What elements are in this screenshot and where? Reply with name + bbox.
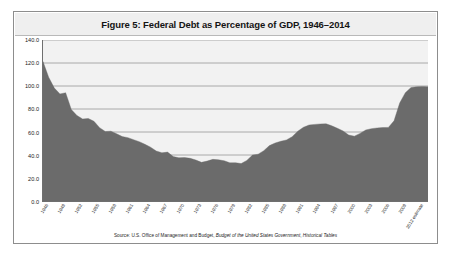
y-axis-tick-label: 0.0 bbox=[31, 199, 39, 205]
x-axis-tick-label: 1949 bbox=[57, 203, 67, 214]
y-axis-tick-label: 140.0 bbox=[25, 37, 39, 43]
source-note: Source: U.S. Office of Management and Bu… bbox=[15, 233, 436, 238]
x-axis-tick-label: 2012 estimate bbox=[405, 203, 424, 230]
debt-area-series bbox=[43, 62, 428, 201]
x-axis-tick-label: 1979 bbox=[227, 203, 237, 214]
x-axis-tick-label: 1952 bbox=[74, 203, 84, 214]
area-chart-svg bbox=[43, 40, 428, 201]
x-axis-tick-label: 2000 bbox=[346, 203, 356, 214]
x-axis-tick-label: 1967 bbox=[159, 203, 169, 214]
chart-title-banner: Figure 5: Federal Debt as Percentage of … bbox=[15, 13, 436, 36]
y-axis-tick-label: 100.0 bbox=[25, 83, 39, 89]
x-axis-tick-label: 2009 bbox=[397, 203, 407, 214]
x-axis-tick-label: 1997 bbox=[329, 203, 339, 214]
x-axis-tick-label: 2003 bbox=[363, 203, 373, 214]
plot-region bbox=[42, 40, 428, 202]
y-axis: 0.020.040.060.080.0100.0120.0140.0 bbox=[14, 40, 39, 202]
y-axis-tick-label: 40.0 bbox=[28, 153, 39, 159]
x-axis-tick-label: 1970 bbox=[176, 203, 186, 214]
y-axis-tick-label: 60.0 bbox=[28, 130, 39, 136]
x-axis-tick-label: 1946 bbox=[40, 203, 50, 214]
x-axis-tick-label: 1958 bbox=[108, 203, 118, 214]
source-publication-title: Budget of the United States Government bbox=[216, 233, 300, 238]
x-axis-tick-label: 1988 bbox=[278, 203, 288, 214]
x-axis-tick-label: 1991 bbox=[295, 203, 305, 214]
x-axis-tick-label: 1961 bbox=[125, 203, 135, 214]
y-axis-tick-label: 20.0 bbox=[28, 176, 39, 182]
x-axis-tick-label: 1985 bbox=[261, 203, 271, 214]
x-axis-tick-label: 1982 bbox=[244, 203, 254, 214]
x-axis-tick-label: 1964 bbox=[142, 203, 152, 214]
page-title: Figure 5: Federal Debt as Percentage of … bbox=[101, 19, 349, 30]
source-table-name: Historical Tables bbox=[303, 233, 337, 238]
x-axis-tick-label: 2006 bbox=[380, 203, 390, 214]
plot-area bbox=[42, 40, 428, 202]
figure-container: Figure 5: Federal Debt as Percentage of … bbox=[13, 11, 438, 244]
x-axis-tick-label: 1973 bbox=[193, 203, 203, 214]
x-axis-tick-label: 1976 bbox=[210, 203, 220, 214]
x-axis-tick-label: 1994 bbox=[312, 203, 322, 214]
source-prefix: Source: U.S. Office of Management and Bu… bbox=[114, 233, 216, 238]
y-axis-tick-label: 120.0 bbox=[25, 60, 39, 66]
y-axis-tick-label: 80.0 bbox=[28, 106, 39, 112]
x-axis-tick-label: 1955 bbox=[91, 203, 101, 214]
